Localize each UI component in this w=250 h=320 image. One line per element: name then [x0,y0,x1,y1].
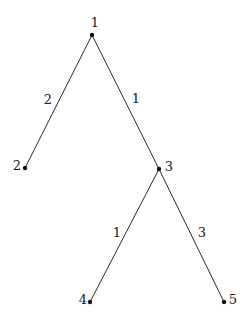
edge-1-3 [92,35,159,169]
tree-diagram: 1 2 3 4 5 2 1 1 3 [0,0,250,320]
tree-edges [0,0,250,320]
node-dot-3 [157,167,161,171]
node-dot-1 [90,33,94,37]
edge-1-2 [25,35,92,168]
node-dot-2 [23,166,27,170]
edge-3-5 [159,169,224,302]
node-label-4: 4 [79,293,87,306]
node-dot-4 [88,300,92,304]
edge-weight-1-2: 2 [44,93,52,106]
node-dot-5 [222,300,226,304]
edge-weight-3-4: 1 [113,226,121,239]
node-label-5: 5 [229,293,237,306]
edge-3-4 [90,169,159,302]
edge-weight-1-3: 1 [132,92,140,105]
node-label-3: 3 [165,160,173,173]
node-label-2: 2 [13,159,21,172]
edge-weight-3-5: 3 [198,226,206,239]
node-label-1: 1 [91,16,99,29]
